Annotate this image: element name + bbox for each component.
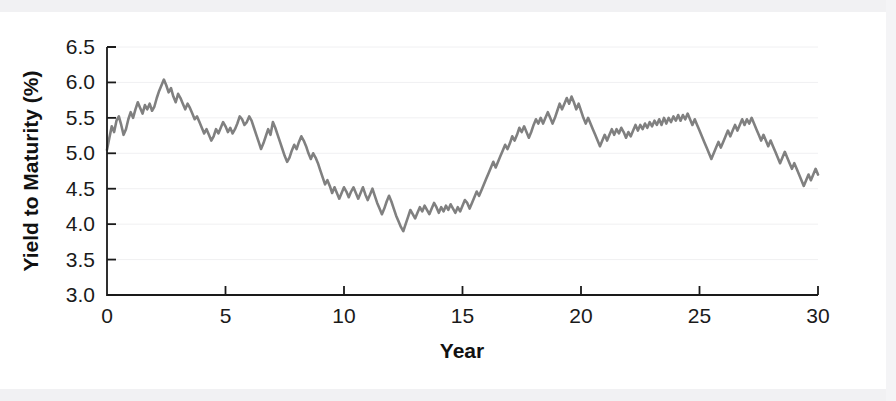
y-tick-label: 5.0 [66,141,95,164]
x-tick-label: 10 [332,304,355,327]
y-axis-title: Yield to Maturity (%) [19,70,42,271]
x-axis-title: Year [440,339,484,362]
x-tick-label: 25 [688,304,711,327]
y-tick-label: 6.0 [66,70,95,93]
y-tick-label: 6.5 [66,35,95,58]
y-tick-label: 3.0 [66,283,95,306]
axis-spine [107,47,818,295]
y-tick-label: 3.5 [66,248,95,271]
series-line-0 [107,80,818,232]
axis-lines [107,47,818,295]
chart-figure: 3.03.54.04.55.05.56.06.5 051015202530 Yi… [0,0,896,401]
y-tick-label: 5.5 [66,106,95,129]
x-tick-label: 30 [806,304,829,327]
x-tick-label: 15 [451,304,474,327]
data-series-group [107,80,818,232]
gridlines [107,47,818,260]
y-tick-label: 4.5 [66,177,95,200]
x-tick-label: 20 [569,304,592,327]
y-tick-label: 4.0 [66,212,95,235]
x-tick-label: 5 [220,304,232,327]
x-axis-tick-labels: 051015202530 [101,286,830,327]
yield-to-maturity-line-chart: 3.03.54.04.55.05.56.06.5 051015202530 Yi… [0,0,896,401]
x-tick-label: 0 [101,304,113,327]
y-axis-tick-labels: 3.03.54.04.55.05.56.06.5 [66,35,116,306]
